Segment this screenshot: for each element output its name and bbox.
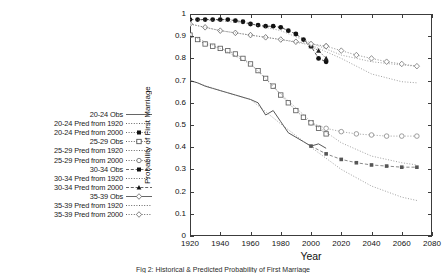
x-axis-tick bbox=[190, 14, 191, 18]
series-1 bbox=[190, 81, 417, 201]
legend-item-label: 20-24 Pred from 2000 bbox=[54, 128, 123, 137]
y-axis-tick-label: 0.7 bbox=[175, 77, 186, 85]
x-axis-tick bbox=[251, 14, 252, 18]
y-axis-tick bbox=[428, 214, 432, 215]
y-axis-tick bbox=[428, 103, 432, 104]
chart-legend: 20-24 Obs20-24 Pred from 192020-24 Pred … bbox=[12, 110, 152, 219]
y-axis-tick bbox=[428, 58, 432, 59]
legend-item-label: 30-34 Pred from 2000 bbox=[54, 183, 123, 192]
y-axis-tick bbox=[190, 147, 194, 148]
y-axis-tick bbox=[428, 36, 432, 37]
plot-area: 00.10.20.30.40.50.60.70.80.9119201940196… bbox=[190, 14, 432, 236]
legend-item: 30-34 Obs bbox=[12, 165, 152, 174]
x-axis-tick bbox=[281, 14, 282, 18]
series-6 bbox=[190, 17, 329, 64]
y-axis-tick bbox=[190, 36, 194, 37]
x-axis-tick-label: 1920 bbox=[181, 240, 199, 248]
y-axis-label: Probability of First Marriage bbox=[141, 50, 154, 220]
y-axis-tick bbox=[190, 103, 194, 104]
legend-item: 20-24 Obs bbox=[12, 110, 152, 119]
y-axis-tick-label: 0.8 bbox=[175, 54, 186, 62]
x-axis-tick-label: 1940 bbox=[211, 240, 229, 248]
y-axis-tick-label: 0.4 bbox=[175, 143, 186, 151]
x-axis-tick bbox=[341, 14, 342, 18]
y-axis-tick bbox=[428, 147, 432, 148]
legend-item: 25-29 Pred from 2000 bbox=[12, 155, 152, 164]
y-axis-tick-label: 0.5 bbox=[175, 121, 186, 129]
series-10 bbox=[190, 24, 417, 83]
x-axis-tick bbox=[220, 232, 221, 236]
legend-item-label: 30-34 Obs bbox=[90, 165, 123, 174]
legend-item-label: 20-24 Pred from 1920 bbox=[54, 119, 123, 128]
x-axis-tick-label: 2060 bbox=[393, 240, 411, 248]
x-axis-tick-label: 2040 bbox=[363, 240, 381, 248]
legend-item: 35-39 Pred from 1920 bbox=[12, 201, 152, 210]
x-axis-tick-label: 1960 bbox=[242, 240, 260, 248]
y-axis-tick-label: 0.2 bbox=[175, 188, 186, 196]
y-axis-tick bbox=[428, 236, 432, 237]
legend-item-label: 35-39 Obs bbox=[90, 192, 123, 201]
legend-item-label: 25-29 Pred from 2000 bbox=[54, 156, 123, 165]
y-axis-tick bbox=[428, 169, 432, 170]
x-axis-tick bbox=[372, 232, 373, 236]
series-0 bbox=[190, 81, 326, 149]
legend-item-label: 35-39 Pred from 2000 bbox=[54, 210, 123, 219]
x-axis-tick-label: 2020 bbox=[332, 240, 350, 248]
chart-curves bbox=[190, 14, 432, 236]
x-axis-tick-label: 1980 bbox=[272, 240, 290, 248]
x-axis-tick bbox=[432, 14, 433, 18]
chart-figure: 20-24 Obs20-24 Pred from 192020-24 Pred … bbox=[0, 0, 446, 276]
y-axis-tick bbox=[190, 192, 194, 193]
x-axis-tick bbox=[251, 232, 252, 236]
x-axis-tick bbox=[372, 14, 373, 18]
legend-item-label: 30-34 Pred from 1920 bbox=[54, 174, 123, 183]
y-axis-tick-label: 0.1 bbox=[175, 210, 186, 218]
y-axis-tick bbox=[190, 125, 194, 126]
legend-item: 25-29 Pred from 1920 bbox=[12, 146, 152, 155]
x-axis-tick bbox=[281, 232, 282, 236]
x-axis-tick-label: 2000 bbox=[302, 240, 320, 248]
x-axis-tick bbox=[311, 232, 312, 236]
legend-item: 35-39 Obs bbox=[12, 192, 152, 201]
y-axis-tick bbox=[428, 192, 432, 193]
x-axis-tick-label: 2080 bbox=[423, 240, 441, 248]
x-axis-tick bbox=[432, 232, 433, 236]
y-axis-tick bbox=[428, 81, 432, 82]
legend-item: 35-39 Pred from 2000 bbox=[12, 210, 152, 219]
legend-item: 30-34 Pred from 1920 bbox=[12, 174, 152, 183]
legend-item: 30-34 Pred from 2000 bbox=[12, 183, 152, 192]
legend-item: 25-29 Obs bbox=[12, 137, 152, 146]
x-axis-tick bbox=[311, 14, 312, 18]
x-axis-tick bbox=[220, 14, 221, 18]
legend-item-label: 25-29 Pred from 1920 bbox=[54, 146, 123, 155]
x-axis-tick bbox=[341, 232, 342, 236]
y-axis-tick-label: 0.9 bbox=[175, 32, 186, 40]
x-axis-tick bbox=[402, 14, 403, 18]
y-axis-tick-label: 0.3 bbox=[175, 165, 186, 173]
legend-item: 20-24 Pred from 1920 bbox=[12, 119, 152, 128]
y-axis-tick bbox=[190, 169, 194, 170]
y-axis-tick-label: 1 bbox=[182, 10, 186, 18]
x-axis-label: Year bbox=[190, 250, 432, 262]
y-axis-tick bbox=[190, 236, 194, 237]
legend-item-label: 35-39 Pred from 1920 bbox=[54, 201, 123, 210]
x-axis-tick bbox=[402, 232, 403, 236]
figure-caption: Fig 2: Historical & Predicted Probabilit… bbox=[0, 266, 446, 273]
legend-item-label: 25-29 Obs bbox=[90, 137, 123, 146]
x-axis-tick bbox=[190, 232, 191, 236]
legend-item-label: 20-24 Obs bbox=[90, 110, 123, 119]
y-axis-tick bbox=[428, 125, 432, 126]
y-axis-tick-label: 0.6 bbox=[175, 99, 186, 107]
y-axis-tick bbox=[190, 58, 194, 59]
series-3 bbox=[190, 33, 328, 136]
legend-item: 20-24 Pred from 2000 bbox=[12, 128, 152, 137]
series-4 bbox=[190, 35, 417, 165]
y-axis-tick bbox=[190, 81, 194, 82]
y-axis-tick bbox=[190, 214, 194, 215]
